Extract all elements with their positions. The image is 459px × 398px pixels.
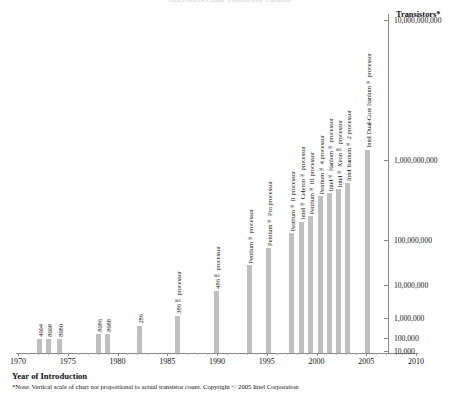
bar-group: 8080 — [57, 14, 62, 353]
transistor-count-chart: Microprocessor Transistor Counts 4004800… — [0, 0, 459, 398]
x-tick-major — [317, 353, 318, 356]
y-tick-label: 10,000,000 — [394, 281, 428, 290]
bar-label: 4004 — [36, 324, 43, 337]
x-tick-minor — [78, 353, 79, 355]
x-tick-minor — [376, 353, 377, 355]
x-tick-minor — [137, 353, 138, 355]
x-tick-minor — [307, 353, 308, 355]
bar-group: Intel® Xeon™ processor — [336, 14, 341, 353]
bar-group: Intel Itanium® 2 processor — [345, 14, 350, 353]
bar-group: 286 — [137, 14, 142, 353]
bar-group: Intel Dual-Core Itanium® processor — [365, 14, 370, 353]
bar-group: 8008 — [46, 14, 51, 353]
bar-group: 8086 — [96, 14, 101, 353]
chart-title: Microprocessor Transistor Counts — [0, 0, 459, 2]
x-tick-minor — [277, 353, 278, 355]
x-tick-minor — [237, 353, 238, 355]
bar-label: 386™ processor — [174, 271, 181, 314]
x-tick-minor — [48, 353, 49, 355]
x-tick-minor — [257, 353, 258, 355]
bar-label: 8008 — [45, 324, 52, 337]
x-tick-minor — [98, 353, 99, 355]
x-tick-minor — [287, 353, 288, 355]
x-tick-label: 2010 — [408, 357, 424, 366]
x-tick-label: 1990 — [209, 357, 225, 366]
x-tick-minor — [356, 353, 357, 355]
y-tick-label: 1,000,000 — [394, 314, 424, 323]
x-tick-minor — [88, 353, 89, 355]
x-tick-major — [267, 353, 268, 356]
x-tick-label: 2005 — [358, 357, 374, 366]
bar-group: Pentium® III processor — [308, 14, 313, 353]
bar — [247, 265, 252, 353]
x-tick-minor — [386, 353, 387, 355]
x-tick-minor — [346, 353, 347, 355]
bar-group: Intel® Itanium® processor — [327, 14, 332, 353]
y-axis-title: Transistors* — [396, 10, 441, 19]
y-tick — [384, 160, 389, 161]
bar-label: Intel Dual-Core Itanium® processor — [364, 53, 371, 148]
x-tick-minor — [336, 353, 337, 355]
plot-area: 40048008808080868088286386™ processor486… — [16, 14, 384, 353]
x-tick-major — [217, 353, 218, 356]
bar — [175, 316, 180, 353]
bar — [137, 326, 142, 353]
y-tick — [384, 338, 389, 339]
x-tick-minor — [297, 353, 298, 355]
x-tick-major — [118, 353, 119, 356]
x-tick-minor — [177, 353, 178, 355]
x-tick-minor — [227, 353, 228, 355]
bar-label: 8086 — [95, 319, 102, 332]
bar — [57, 339, 62, 353]
bar — [266, 248, 271, 353]
bar — [327, 193, 332, 353]
bar-label: Pentium® processor — [246, 209, 253, 263]
bar — [96, 334, 101, 353]
bar-label: Pentium® 4 processor — [317, 135, 324, 194]
chart-footnote: *Note: Vertical scale of chart not propo… — [12, 383, 299, 390]
bar-group: Pentium® Pro processor — [266, 14, 271, 353]
bar-label: Pentium® III processor — [307, 152, 314, 214]
bar-label: Intel Itanium® 2 processor — [344, 110, 351, 181]
bar — [105, 334, 110, 353]
y-tick — [384, 318, 389, 319]
bar — [289, 233, 294, 353]
bar — [308, 216, 313, 353]
x-axis-title: Year of Introduction — [12, 371, 87, 381]
x-tick-minor — [147, 353, 148, 355]
x-tick-major — [68, 353, 69, 356]
x-tick-minor — [207, 353, 208, 355]
x-tick-label: 2000 — [309, 357, 325, 366]
y-tick — [384, 285, 389, 286]
y-tick-label: 1,000,000,000 — [394, 156, 438, 165]
bar — [318, 196, 323, 353]
x-tick-major — [366, 353, 367, 356]
bar — [336, 189, 341, 353]
x-tick-major — [416, 353, 417, 356]
bar-group: Pentium® processor — [247, 14, 252, 353]
x-tick-minor — [28, 353, 29, 355]
x-tick-minor — [197, 353, 198, 355]
y-tick — [384, 20, 389, 21]
x-tick-label: 1980 — [110, 357, 126, 366]
bar — [345, 183, 350, 353]
bar-label: 486™ processor — [213, 246, 220, 289]
x-tick-label: 1985 — [159, 357, 175, 366]
y-axis-line — [388, 14, 389, 354]
y-tick-label: 10,000 — [394, 347, 415, 356]
x-tick-minor — [247, 353, 248, 355]
bar-label: Intel® Xeon™ processor — [335, 120, 342, 187]
x-tick-minor — [58, 353, 59, 355]
x-tick-major — [18, 353, 19, 356]
bar-label: 8088 — [104, 319, 111, 332]
bar-group: 386™ processor — [175, 14, 180, 353]
x-tick-label: 1995 — [259, 357, 275, 366]
bar-label: 8080 — [56, 324, 63, 337]
bar — [365, 150, 370, 353]
bar-group: Intel® Celeron® processor — [299, 14, 304, 353]
bar-label: Intel® Itanium® processor — [326, 118, 333, 191]
y-tick-label: 100,000,000 — [394, 236, 432, 245]
bar-label: Intel® Celeron® processor — [298, 146, 305, 220]
y-tick — [384, 351, 389, 352]
x-tick-major — [167, 353, 168, 356]
